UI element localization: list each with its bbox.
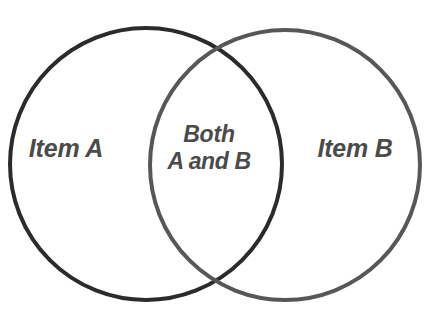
intersection-label-line-2: A and B	[167, 148, 250, 175]
venn-diagram: Item A Both A and B Item B	[0, 0, 432, 325]
intersection-label-line-1: Both	[167, 121, 250, 148]
set-b-label: Item B	[317, 134, 392, 163]
set-a-label: Item A	[29, 134, 103, 163]
intersection-label: Both A and B	[167, 121, 250, 174]
